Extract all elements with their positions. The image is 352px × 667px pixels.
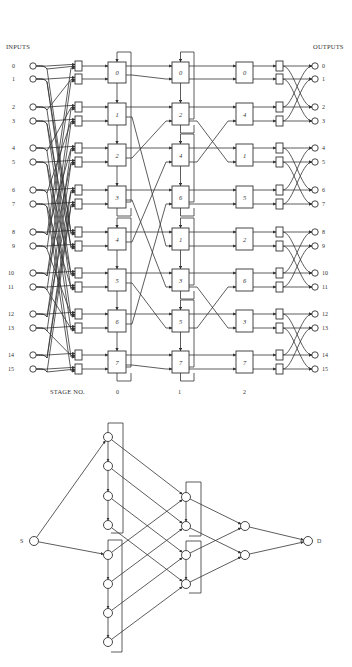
stage0-node-0: [104, 433, 113, 442]
input-number-12: 12: [8, 311, 14, 317]
stage0-to-stage1: [126, 75, 172, 79]
stage0-to-stage1: [126, 117, 172, 246]
input-port-13: [30, 325, 36, 331]
stage0-node-2: [104, 492, 113, 501]
input-mux-9: [75, 241, 82, 251]
inputs-label: INPUTS: [6, 43, 30, 50]
input-mux-2: [75, 102, 82, 112]
output-number-4: 4: [322, 145, 325, 151]
input-mux-13: [75, 323, 82, 333]
input-mux-14: [75, 350, 82, 360]
stage2-node-1: [241, 551, 250, 560]
input-mux-12: [75, 309, 82, 319]
feedback-loop: [181, 125, 195, 133]
feedback-loop: [181, 373, 195, 381]
stage1-node-1: [182, 522, 191, 531]
stage0-box-label: 1: [116, 111, 119, 118]
graph-edge: [190, 557, 241, 582]
input-port-11: [30, 284, 36, 290]
stage0-to-stage1: [126, 365, 172, 369]
input-port-7: [30, 201, 36, 207]
input-number-10: 10: [8, 270, 14, 276]
input-port-14: [30, 352, 36, 358]
input-mux-11: [75, 282, 82, 292]
stage0-node-6: [104, 609, 113, 618]
output-mux-0: [276, 61, 283, 71]
output-mux-3: [276, 116, 283, 126]
output-mux-2: [276, 102, 283, 112]
feedback-loop: [117, 208, 131, 216]
input-mux-0: [75, 61, 82, 71]
stage1-box-label: 1: [179, 236, 182, 243]
input-number-8: 8: [12, 229, 15, 235]
graph-nodes: [30, 433, 313, 647]
output-port-14: [312, 352, 318, 358]
output-number-6: 6: [322, 187, 325, 193]
input-mux-7: [75, 199, 82, 209]
output-port-9: [312, 243, 318, 249]
stage0-node-7: [104, 638, 113, 647]
stage1-node-0: [182, 493, 191, 502]
dest-node: [304, 537, 313, 546]
input-mux-15: [75, 364, 82, 374]
output-number-15: 15: [322, 366, 328, 372]
source-node: [30, 537, 39, 546]
output-mux-15: [276, 364, 283, 374]
output-mux-9: [276, 241, 283, 251]
output-mux-6: [276, 185, 283, 195]
graph-edge: [249, 527, 303, 540]
output-port-15: [312, 366, 318, 372]
output-mux-5: [276, 157, 283, 167]
output-port-6: [312, 187, 318, 193]
stage0-node-1: [104, 462, 113, 471]
output-port-5: [312, 159, 318, 165]
stage2-node-0: [241, 522, 250, 531]
stage-number-1: 1: [178, 389, 181, 395]
output-mux-10: [276, 268, 283, 278]
input-port-6: [30, 187, 36, 193]
output-mux-4: [276, 143, 283, 153]
stage2-box-label: 1: [243, 152, 246, 159]
input-number-1: 1: [12, 76, 15, 82]
multistage-network: INPUTS OUTPUTS 0123456789101112131415012…: [6, 43, 344, 395]
input-number-14: 14: [8, 352, 14, 358]
feedback-loop: [181, 208, 195, 216]
input-port-0: [30, 63, 36, 69]
output-port-10: [312, 270, 318, 276]
output-port-13: [312, 325, 318, 331]
stage0-to-stage1: [126, 121, 172, 158]
stage0-node-4: [104, 551, 113, 560]
graph-edges: [37, 423, 304, 652]
input-number-5: 5: [12, 159, 15, 165]
output-number-14: 14: [322, 352, 328, 358]
dest-label: D: [317, 538, 322, 544]
stage0-node-5: [104, 580, 113, 589]
output-mux-13: [276, 323, 283, 333]
input-number-9: 9: [12, 243, 15, 249]
output-number-11: 11: [322, 284, 328, 290]
graph-edge: [190, 499, 241, 524]
input-mux-5: [75, 157, 82, 167]
input-wire: [36, 287, 75, 329]
input-mux-10: [75, 268, 82, 278]
output-port-2: [312, 104, 318, 110]
stage-number-0: 0: [116, 389, 119, 395]
output-number-8: 8: [322, 229, 325, 235]
output-port-12: [312, 311, 318, 317]
input-mux-4: [75, 143, 82, 153]
output-mux-14: [276, 350, 283, 360]
stage1-node-3: [182, 580, 191, 589]
input-mux-3: [75, 116, 82, 126]
input-port-2: [30, 104, 36, 110]
output-mux-7: [276, 199, 283, 209]
input-port-15: [30, 366, 36, 372]
input-port-4: [30, 145, 36, 151]
stage1-node-2: [182, 551, 191, 560]
input-number-6: 6: [12, 187, 15, 193]
input-number-4: 4: [12, 145, 15, 151]
output-port-11: [312, 284, 318, 290]
output-number-3: 3: [322, 118, 325, 124]
input-port-12: [30, 311, 36, 317]
output-mux-1: [276, 74, 283, 84]
output-port-3: [312, 118, 318, 124]
